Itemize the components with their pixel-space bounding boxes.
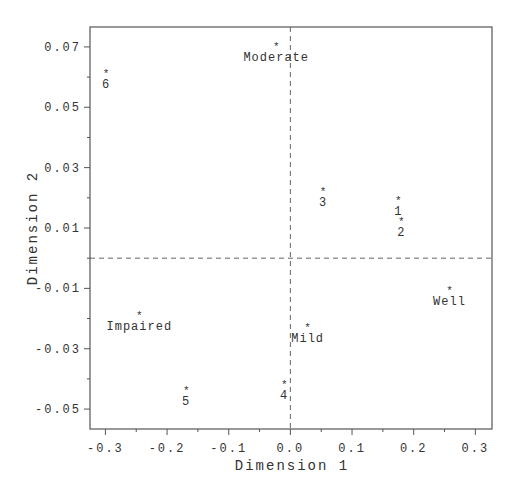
x-tick-label: -0.1 (210, 442, 247, 456)
x-axis-label: Dimension 1 (235, 458, 349, 474)
point-label: 2 (397, 226, 405, 240)
point-label: 6 (102, 78, 110, 92)
y-tick-label: -0.05 (35, 403, 81, 417)
data-point-5: *5 (182, 385, 190, 409)
point-label: Impaired (107, 320, 173, 334)
y-tick-label: -0.03 (35, 343, 81, 357)
point-label: 4 (280, 389, 288, 403)
y-tick-label: 0.05 (44, 101, 81, 115)
x-tick-label: -0.2 (149, 442, 186, 456)
data-point-3: *3 (319, 186, 327, 210)
point-label: 5 (182, 395, 190, 409)
x-tick-label: -0.3 (87, 442, 124, 456)
x-tick-label: 0.1 (338, 442, 366, 456)
data-point-impaired: *Impaired (107, 310, 173, 334)
point-label: Well (433, 295, 466, 309)
plot-frame (90, 27, 492, 429)
data-point-mild: *Mild (291, 322, 324, 346)
y-tick-label: 0.03 (44, 162, 81, 176)
point-label: Moderate (243, 51, 309, 65)
x-tick-label: 0.0 (277, 442, 305, 456)
point-label: Mild (291, 332, 324, 346)
y-tick-label: 0.01 (44, 222, 81, 236)
x-tick-label: 0.2 (400, 442, 428, 456)
data-point-moderate: *Moderate (243, 41, 309, 65)
y-tick-label: -0.01 (35, 282, 81, 296)
point-label: 3 (319, 196, 327, 210)
data-point-well: *Well (433, 285, 466, 309)
data-point-2: *2 (397, 216, 405, 240)
x-tick-label: 0.3 (462, 442, 490, 456)
data-point-4: *4 (280, 379, 288, 403)
data-points: *Moderate*Well*Mild*Impaired*1*2*3*4*5*6 (102, 41, 466, 409)
y-axis: 0.070.050.030.01-0.01-0.03-0.05 (35, 41, 90, 417)
reference-lines (90, 27, 492, 429)
x-axis: -0.3-0.2-0.10.00.10.20.3 (87, 429, 489, 456)
scatter-chart: -0.3-0.2-0.10.00.10.20.3 0.070.050.030.0… (0, 0, 514, 492)
y-axis-label: Dimension 2 (25, 171, 41, 285)
y-tick-label: 0.07 (44, 41, 81, 55)
data-point-6: *6 (102, 68, 110, 92)
